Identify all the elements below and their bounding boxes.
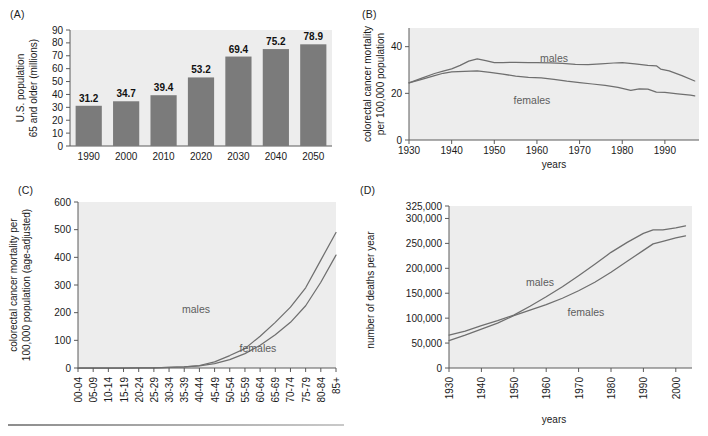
panel-b-plot-background <box>409 28 699 140</box>
panel-a-bar <box>113 101 139 146</box>
panel-a-bar <box>300 44 326 146</box>
panel-a-y-axis-title: U.S. population 65 and older (millions) <box>15 39 39 137</box>
panel-d-xtick-label: 1990 <box>638 377 649 400</box>
panel-b-x-ticks: 1930194019501960197019801990 <box>398 140 677 156</box>
panel-a-bar-value-label: 34.7 <box>116 88 136 99</box>
panel-b-ytick-label: 40 <box>391 41 403 52</box>
panel-b-xlabel: years <box>542 159 566 170</box>
panel-d-xtick-label: 1940 <box>476 377 487 400</box>
panel-a-ylabel-line2: 65 and older (millions) <box>28 39 39 137</box>
panel-c-xtick-label: 35-39 <box>179 377 190 403</box>
panel-b-ytick-label: 20 <box>391 88 403 99</box>
panel-a-bar-value-label: 53.2 <box>191 64 211 75</box>
panel-c-xtick-label: 45-49 <box>210 377 221 403</box>
panel-b-chart: colorectal cancer mortality per 100,000 … <box>354 0 708 180</box>
panel-b-y-ticks: 02040 <box>391 41 409 145</box>
panel-c-xtick-label: 30-34 <box>164 377 175 403</box>
panel-a-xtick-label: 1990 <box>78 151 101 162</box>
panel-c-xtick-label: 80-84 <box>316 377 327 403</box>
panel-a-ytick-label: 0 <box>57 141 63 152</box>
panel-a-bar-value-label: 31.2 <box>79 93 99 104</box>
panel-d-ytick-label: 300,000 <box>406 213 443 224</box>
panel-c-series-label-females: females <box>240 342 277 354</box>
panel-b-xtick-label: 1930 <box>398 145 421 156</box>
panel-d-xtick-label: 1970 <box>574 377 585 400</box>
panel-d-xtick-label: 1980 <box>606 377 617 400</box>
panel-a-xtick-label: 2000 <box>115 151 138 162</box>
panel-b-ytick-label: 0 <box>396 135 402 146</box>
panel-b-series-label-males: males <box>540 52 568 64</box>
panel-d-ytick-label: 325,000 <box>406 201 443 212</box>
panel-c-xtick-label: 85+ <box>331 377 342 394</box>
panel-a-label: (A) <box>10 8 25 20</box>
panel-c-ytick-label: 300 <box>54 280 71 291</box>
panel-b-label: (B) <box>362 8 377 20</box>
panel-c-plot-background <box>78 202 336 368</box>
bottom-divider <box>8 424 344 426</box>
panel-b-xtick-label: 1950 <box>483 145 506 156</box>
panel-c-ytick-label: 100 <box>54 335 71 346</box>
panel-c-xtick-label: 10-14 <box>103 377 114 403</box>
panel-d-ytick-label: 0 <box>436 363 442 374</box>
panel-a-bar <box>150 95 176 146</box>
panel-a-chart: U.S. population 65 and older (millions) … <box>0 0 354 180</box>
panel-c-x-ticks: 00-0405-0910-1415-1920-2425-2930-3435-39… <box>73 368 342 403</box>
panel-c-xtick-label: 65-69 <box>270 377 281 403</box>
panel-d-series-label-females: females <box>568 306 605 318</box>
panel-b-series-label-females: females <box>514 94 551 106</box>
panel-d-xtick-label: 1960 <box>541 377 552 400</box>
panel-d-ytick-label: 200,000 <box>406 263 443 274</box>
panel-a-ytick-label: 90 <box>52 25 64 36</box>
panel-c-xtick-label: 70-74 <box>285 377 296 403</box>
panel-c-label: (C) <box>18 184 33 196</box>
panel-c: (C) colorectal cancer mortality per 100,… <box>0 180 354 436</box>
panel-a-bar <box>225 57 251 146</box>
panel-a-ytick-label: 20 <box>52 115 64 126</box>
panel-b-xtick-label: 1940 <box>441 145 464 156</box>
panel-d-series-label-males: males <box>526 276 554 288</box>
panel-b-xtick-label: 1980 <box>611 145 634 156</box>
panel-a-bar <box>188 77 214 146</box>
panel-a-bar-value-label: 39.4 <box>154 82 174 93</box>
panel-c-xtick-label: 20-24 <box>134 377 145 403</box>
panel-c-ytick-label: 400 <box>54 252 71 263</box>
panel-a-bar-value-label: 78.9 <box>304 31 324 42</box>
panel-a-ytick-label: 80 <box>52 37 64 48</box>
panel-d-y-ticks: 050,000100,000150,000200,000250,000300,0… <box>406 201 449 374</box>
panel-d: (D) number of deaths per year 050,000100… <box>354 180 708 436</box>
panel-a-ytick-label: 70 <box>52 50 64 61</box>
panel-c-ylabel-line1: colorectal cancer mortality per <box>8 218 19 352</box>
panel-a-ytick-label: 30 <box>52 102 64 113</box>
panel-a-xtick-label: 2010 <box>152 151 175 162</box>
panel-d-ytick-label: 100,000 <box>406 313 443 324</box>
panel-d-ytick-label: 150,000 <box>406 288 443 299</box>
panel-c-ytick-label: 600 <box>54 197 71 208</box>
panel-c-xtick-label: 15-19 <box>119 377 130 403</box>
panel-a-ylabel-line1: U.S. population <box>15 54 26 122</box>
panel-a-x-ticks: 1990200020102020203020402050 <box>78 151 325 162</box>
panel-d-ytick-label: 250,000 <box>406 238 443 249</box>
panel-b-xtick-label: 1990 <box>654 145 677 156</box>
panel-c-y-ticks: 0100200300400500600 <box>54 197 78 374</box>
panel-c-chart: colorectal cancer mortality per 100,000 … <box>0 180 354 436</box>
panel-a-xtick-label: 2020 <box>190 151 213 162</box>
panel-c-xtick-label: 00-04 <box>73 377 84 403</box>
panel-d-xlabel: years <box>542 414 566 425</box>
panel-b: (B) colorectal cancer mortality per 100,… <box>354 0 708 180</box>
panel-c-ytick-label: 0 <box>65 363 71 374</box>
panel-c-series-label-males: males <box>182 303 210 315</box>
panel-d-xtick-label: 1950 <box>509 377 520 400</box>
panel-d-xtick-label: 2000 <box>671 377 682 400</box>
panel-a: (A) U.S. population 65 and older (millio… <box>0 0 354 180</box>
panel-a-bar-value-label: 75.2 <box>266 36 286 47</box>
panel-c-ytick-label: 500 <box>54 224 71 235</box>
panel-b-ylabel-line2: per 100,000 population <box>375 33 386 135</box>
panel-d-x-ticks: 19301940195019601970198019902000 <box>444 368 682 399</box>
panel-b-y-axis-title: colorectal cancer mortality per 100,000 … <box>362 26 386 142</box>
panel-a-bar <box>76 106 102 146</box>
panel-c-y-axis-title: colorectal cancer mortality per 100,000 … <box>8 209 32 361</box>
panel-b-xtick-label: 1970 <box>568 145 591 156</box>
panel-d-ytick-label: 50,000 <box>411 338 442 349</box>
panel-c-xtick-label: 50-54 <box>225 377 236 403</box>
panel-c-xtick-label: 60-64 <box>255 377 266 403</box>
